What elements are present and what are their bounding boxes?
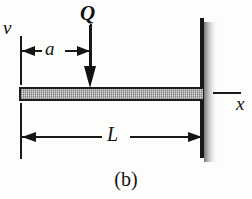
beam-left-end-cap bbox=[19, 87, 21, 101]
figure-caption: (b) bbox=[0, 168, 252, 191]
beam-diagram-figure: v x Q a L (b) bbox=[0, 0, 252, 199]
dimension-L-label: L bbox=[107, 124, 118, 144]
dimension-a-arrowhead-left-icon bbox=[22, 46, 35, 56]
dimension-a-label: a bbox=[45, 39, 55, 58]
downward-force-arrow-icon bbox=[84, 66, 96, 88]
dimension-L-arrowhead-left-icon bbox=[22, 132, 36, 142]
dimension-L-arrowhead-right-icon bbox=[188, 132, 202, 142]
load-label: Q bbox=[80, 3, 95, 24]
x-axis-label: x bbox=[236, 94, 244, 113]
v-axis-label: v bbox=[3, 18, 11, 37]
dimension-a-arrowhead-right-icon bbox=[77, 46, 90, 56]
v-axis-line-upper bbox=[20, 36, 22, 85]
hatched-beam-icon bbox=[19, 87, 203, 101]
load-extension-line bbox=[90, 24, 92, 64]
